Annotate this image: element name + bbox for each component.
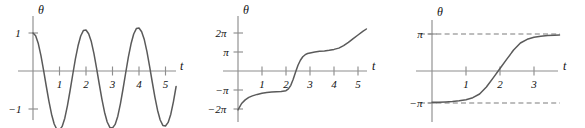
y-ticklabel-3-0: π bbox=[417, 28, 423, 40]
plot-1-labels: θ t 1 −1 1 2 3 4 5 bbox=[9, 3, 184, 115]
chart-panel-1: θ t 1 −1 1 2 3 4 5 bbox=[0, 0, 195, 128]
plot-2-axes bbox=[223, 16, 367, 122]
x-axis-label-3: t bbox=[563, 59, 567, 73]
x-ticklabel-2-0: 1 bbox=[259, 78, 265, 90]
plot-3-axes bbox=[416, 20, 558, 122]
plot-1-svg: θ t 1 −1 1 2 3 4 5 bbox=[0, 0, 195, 128]
y-ticklabel-2-2: −π bbox=[216, 84, 229, 96]
chart-panel-3: θ t π −π 1 2 3 bbox=[390, 0, 585, 128]
y-ticklabel-1-1: −1 bbox=[9, 103, 22, 115]
y-ticklabel-1-0: 1 bbox=[15, 27, 21, 39]
y-ticklabel-2-3: −2π bbox=[208, 103, 227, 115]
curve-cosine bbox=[33, 28, 176, 128]
y-ticklabel-3-1: −π bbox=[410, 97, 423, 109]
plot-2-svg: θ t 2π π −π −2π 1 2 3 4 5 bbox=[195, 0, 390, 128]
three-panel-figure: θ t 1 −1 1 2 3 4 5 bbox=[0, 0, 585, 128]
x-ticklabel-3-2: 3 bbox=[530, 78, 537, 90]
x-ticklabel-3-1: 2 bbox=[497, 78, 503, 90]
plot-3-asymptotes bbox=[420, 34, 560, 103]
x-ticklabel-1-1: 2 bbox=[83, 78, 89, 90]
x-ticklabel-3-0: 1 bbox=[463, 78, 469, 90]
x-ticklabel-2-1: 2 bbox=[283, 78, 289, 90]
x-ticklabel-1-3: 4 bbox=[136, 78, 142, 90]
x-ticklabel-2-2: 3 bbox=[306, 78, 313, 90]
x-ticklabel-2-3: 4 bbox=[331, 78, 337, 90]
y-ticklabel-2-1: π bbox=[223, 46, 229, 58]
plot-3-labels: θ t π −π 1 2 3 bbox=[410, 5, 567, 109]
curve-sigmoid bbox=[432, 35, 560, 102]
x-ticklabel-1-4: 5 bbox=[163, 78, 169, 90]
x-axis-label-2: t bbox=[372, 59, 376, 73]
y-axis-label-1: θ bbox=[38, 3, 44, 17]
x-ticklabel-1-2: 3 bbox=[109, 78, 116, 90]
y-ticklabel-2-0: 2π bbox=[215, 27, 227, 39]
x-ticklabel-2-4: 5 bbox=[355, 78, 361, 90]
y-axis-label-2: θ bbox=[243, 3, 249, 17]
chart-panel-2: θ t 2π π −π −2π 1 2 3 4 5 bbox=[195, 0, 390, 128]
plot-2-labels: θ t 2π π −π −2π 1 2 3 4 5 bbox=[208, 3, 376, 115]
plot-3-svg: θ t π −π 1 2 3 bbox=[390, 0, 585, 128]
x-axis-label-1: t bbox=[180, 59, 184, 73]
curve-staircase bbox=[238, 29, 366, 110]
x-ticklabel-1-0: 1 bbox=[57, 78, 63, 90]
y-axis-label-3: θ bbox=[437, 5, 443, 19]
